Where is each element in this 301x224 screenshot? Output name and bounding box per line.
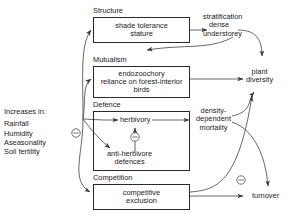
stratification-line-3: understorey (203, 30, 242, 38)
group-label-defence: Defence (93, 100, 121, 109)
node-plant-diversity: plant diversity (246, 68, 273, 85)
group-label-competition: Competition (93, 173, 132, 182)
edge-source-to-competition (79, 119, 90, 192)
group-label-mutualism: Mutualism (93, 55, 127, 64)
box-mutualism: endozoochory reliance on forest-interior… (93, 66, 190, 98)
box-structure: shade tolerance stature (93, 17, 190, 43)
box-mutualism-text: endozoochory reliance on forest-interior… (99, 70, 185, 95)
mutualism-line-3: birds (101, 86, 183, 94)
anti-herbivore-line-2: defences (107, 158, 152, 166)
box-competition-text: competitive exclusion (121, 189, 162, 206)
node-herbivory: herbivory (120, 116, 150, 124)
competition-line-2: exclusion (123, 197, 160, 205)
node-density-dependent-mortality: density- dependent mortality (196, 107, 231, 132)
edge-source-to-mutualism (83, 79, 91, 119)
diagram-canvas: Increases in: Rainfall Humidity Aseasona… (0, 0, 301, 224)
source-item-rainfall: Rainfall (4, 119, 46, 128)
ddm-line-3: mortality (196, 124, 231, 132)
source-item-aseasonality: Aseasonality (4, 138, 46, 147)
source-header: Increases in: (4, 107, 46, 116)
structure-line-2: stature (115, 30, 168, 38)
source-item-humidity: Humidity (4, 129, 46, 138)
source-item-soil-fertility: Soil fertility (4, 147, 46, 156)
box-competition: competitive exclusion (93, 184, 190, 210)
group-label-structure: Structure (93, 6, 123, 15)
source-increases-block: Increases in: Rainfall Humidity Aseasona… (4, 107, 46, 157)
plant-diversity-line-2: diversity (246, 76, 273, 84)
node-turnover: turnover (252, 192, 279, 200)
node-anti-herbivore-defences: anti-herbivore defences (107, 150, 152, 167)
node-stratification: stratification dense understorey (203, 13, 242, 38)
box-structure-text: shade tolerance stature (113, 22, 170, 39)
